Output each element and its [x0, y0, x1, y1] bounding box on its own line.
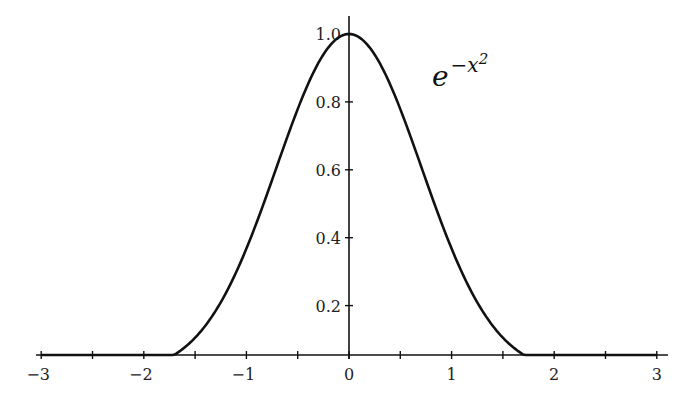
x-tick-label: −2	[129, 365, 153, 384]
x-tick-label: 0	[344, 365, 354, 384]
y-tick-label: 0.2	[316, 297, 341, 316]
x-tick-label: 2	[549, 365, 559, 384]
y-tick-label: 0.6	[316, 161, 341, 180]
y-tick-label: 0.4	[316, 229, 341, 248]
function-label: e−x2	[432, 50, 488, 93]
axes: −3−2−101230.20.40.60.81.0	[26, 16, 668, 384]
chart: −3−2−101230.20.40.60.81.0 e−x2	[0, 0, 697, 403]
x-tick-label: 1	[447, 365, 457, 384]
y-tick-label: 1.0	[316, 25, 341, 44]
x-tick-label: −3	[26, 365, 50, 384]
x-tick-label: 3	[652, 365, 662, 384]
y-tick-label: 0.8	[316, 93, 341, 112]
x-tick-label: −1	[232, 365, 256, 384]
